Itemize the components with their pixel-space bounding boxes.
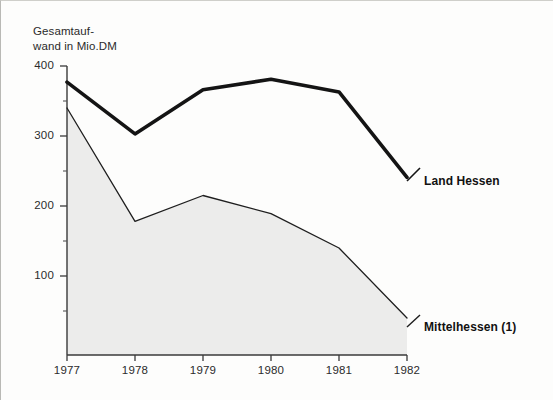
series-label-land-hessen: Land Hessen (424, 174, 500, 188)
leader-line-land-hessen (407, 168, 420, 181)
x-axis-ticks (67, 355, 407, 361)
plot-area (0, 0, 553, 400)
leader-line-mittelhessen (407, 315, 420, 327)
chart-figure: Gesamtauf-wand in Mio.DM 400 300 200 100… (0, 0, 553, 400)
area-fill-mittelhessen (67, 108, 407, 355)
series-line-land-hessen (67, 79, 407, 177)
series-label-mittelhessen: Mittelhessen (1) (424, 320, 516, 334)
